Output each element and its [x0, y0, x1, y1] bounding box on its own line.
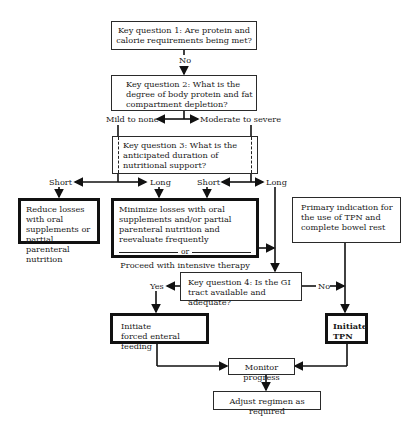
initiate-tpn-box: Initiate TPN — [325, 313, 368, 344]
mild-to-none-label: Mild to none — [106, 114, 159, 124]
monitor-progress-box: Monitor progress — [228, 358, 295, 375]
long-right-label: Long — [266, 177, 287, 187]
key-question-2-text: Key question 2: What is the degree of bo… — [126, 79, 253, 109]
primary-indication-text: Primary indication for the use of TPN an… — [301, 202, 393, 232]
no-label-1: No — [179, 55, 191, 65]
or-label: or — [178, 247, 192, 257]
key-question-3-box: Key question 3: What is the anticipated … — [112, 136, 258, 174]
initiate-tpn-line2: TPN — [333, 331, 365, 341]
key-question-2-box: Key question 2: What is the degree of bo… — [111, 75, 257, 111]
key-question-3-text: Key question 3: What is the anticipated … — [123, 140, 237, 170]
no-label-2: No — [318, 281, 330, 291]
short-right-label: Short — [197, 177, 220, 187]
short-left-label: Short — [49, 177, 72, 187]
monitor-progress-text: Monitor progress — [243, 362, 280, 382]
key-question-4-box: Key question 4: Is the GI tract availabl… — [180, 272, 302, 301]
adjust-regimen-box: Adjust regimen as required — [213, 391, 321, 410]
yes-label: Yes — [150, 281, 164, 291]
key-question-1-text: Key question 1: Are protein and calorie … — [116, 25, 252, 45]
reduce-losses-box: Reduce losses with oral supplements or p… — [18, 198, 100, 244]
initiate-tpn-line1: Initiate — [333, 321, 365, 331]
or-divider: or — [119, 247, 251, 257]
minimize-losses-box: Minimize losses with oral supplements an… — [111, 198, 259, 258]
initiate-enteral-line1: Initiate — [121, 321, 206, 331]
initiate-enteral-box: Initiate forced enteral feeding — [110, 313, 209, 344]
moderate-to-severe-label: Moderate to severe — [200, 114, 281, 124]
proceed-text: Proceed with intensive therapy — [119, 260, 251, 270]
primary-indication-box: Primary indication for the use of TPN an… — [292, 197, 401, 243]
long-left-label: Long — [150, 177, 171, 187]
dashed-line-right — [251, 137, 252, 173]
minimize-losses-text: Minimize losses with oral supplements an… — [119, 204, 251, 244]
initiate-enteral-line2: forced enteral feeding — [121, 331, 206, 351]
dashed-line-left — [118, 137, 119, 173]
key-question-1-box: Key question 1: Are protein and calorie … — [111, 21, 257, 50]
